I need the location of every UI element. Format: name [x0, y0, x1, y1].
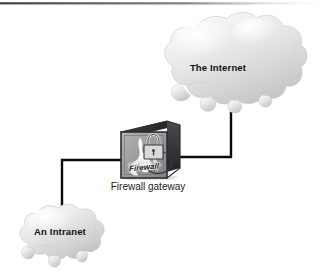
intranet-cloud-lobe-right [76, 251, 87, 262]
internet-cloud-highlight-b [232, 18, 280, 48]
internet-cloud-lobe-mid [200, 97, 216, 111]
intranet-cloud-lobe-mid [48, 255, 60, 267]
intranet-cloud-label: An Intranet [34, 227, 86, 237]
scan-edge-line [0, 2, 335, 5]
network-diagram-figure: The Internet An Intranet Firewall Firewa… [0, 0, 335, 277]
firewall-device-side-face [167, 121, 180, 172]
internet-cloud-lobe-right [259, 95, 272, 107]
internet-cloud-lobe-midright [228, 100, 242, 113]
internet-cloud-label: The Internet [190, 63, 246, 73]
firewall-gateway-caption: Firewall gateway [111, 182, 185, 192]
internet-cloud-highlight-a [175, 22, 235, 62]
